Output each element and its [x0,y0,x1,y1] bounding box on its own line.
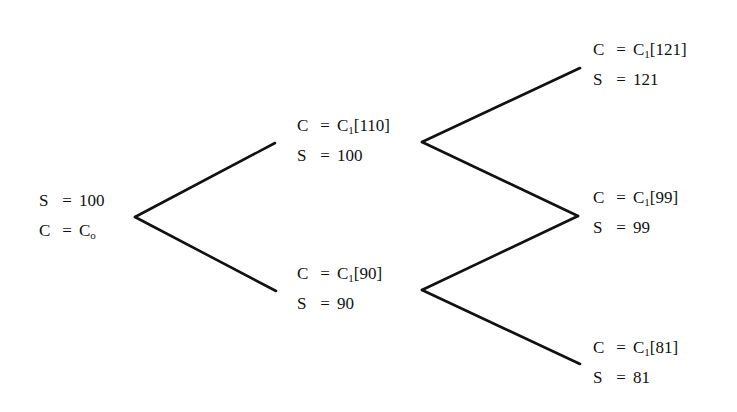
node-up: C=C1[110] S=100 [297,111,390,171]
node-line-s: S=100 [39,186,105,216]
node-down: C=C1[90] S=90 [297,259,382,319]
edge-root-down [135,217,276,291]
node-line-s: S=90 [297,289,382,319]
node-line-s: S=100 [297,141,390,171]
binomial-tree-diagram: S=100 C=Co C=C1[110] S=100 C=C1[90] S=90… [0,0,737,412]
node-line-c: C=C1[81] [593,333,678,363]
node-line-s: S=99 [593,213,678,243]
node-root: S=100 C=Co [39,186,105,246]
node-up-up: C=C1[121] S=121 [593,35,687,95]
node-line-c: C=C1[110] [297,111,390,141]
node-line-s: S=121 [593,65,687,95]
node-line-s: S=81 [593,363,678,393]
edge-root-up [135,143,275,217]
node-line-c: C=C1[121] [593,35,687,65]
edge-down-downdown [422,290,580,364]
node-line-c: C=Co [39,216,105,246]
node-line-c: C=C1[90] [297,259,382,289]
node-line-c: C=C1[99] [593,183,678,213]
edge-up-updown [422,142,578,216]
node-up-down: C=C1[99] S=99 [593,183,678,243]
edge-down-updown [422,216,578,290]
node-down-down: C=C1[81] S=81 [593,333,678,393]
edge-up-upup [422,68,580,142]
